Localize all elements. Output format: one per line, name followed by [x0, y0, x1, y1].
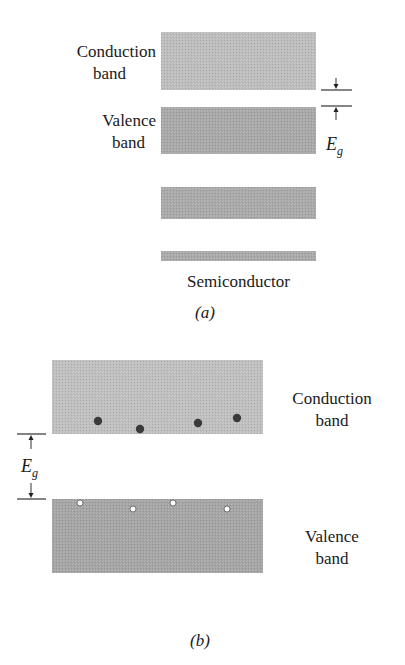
electron-dot-icon: [194, 419, 202, 427]
panel-a-lower-band-1-texture: [161, 187, 316, 219]
panel-a-gap-subscript: g: [337, 144, 343, 158]
panel-a-conduction-label-line2: band: [40, 63, 156, 85]
panel-a-bands: [161, 32, 316, 261]
panel-a-title: Semiconductor: [161, 271, 316, 293]
panel-a-valence-label: Valence band: [40, 110, 156, 154]
panel-b-conduction-label-line2: band: [274, 410, 390, 432]
up-arrowhead-icon: [29, 435, 34, 440]
electron-dot-icon: [136, 425, 144, 433]
up-arrowhead-icon: [334, 107, 339, 112]
hole-circle-icon: [224, 506, 230, 512]
panel-a-conduction-band-texture: [161, 32, 316, 90]
panel-a-valence-band-texture: [161, 107, 316, 154]
down-arrowhead-icon: [29, 493, 34, 498]
panel-b-gap-label: Eg: [21, 455, 38, 484]
electron-dot-icon: [94, 417, 102, 425]
panel-b-valence-band-texture: [52, 499, 263, 573]
panel-a-conduction-label-line1: Conduction: [40, 41, 156, 63]
panel-b-bands: [52, 360, 263, 573]
panel-b-valence-label-line1: Valence: [274, 526, 390, 548]
panel-a-gap-label: Eg: [326, 133, 343, 162]
panel-a-gap-marker: [321, 78, 352, 120]
panel-b-conduction-label: Conduction band: [274, 388, 390, 432]
panel-a-gap-symbol: E: [326, 134, 337, 154]
band-diagram: Conduction band Valence band Eg Semicond…: [0, 0, 405, 665]
panel-b-valence-label-line2: band: [274, 548, 390, 570]
panel-a-caption: (a): [161, 302, 249, 324]
panel-b-conduction-band-texture: [52, 360, 263, 434]
panel-a-valence-label-line2: band: [40, 132, 156, 154]
panel-b-caption: (b): [180, 630, 220, 652]
panel-b-gap-subscript: g: [32, 466, 38, 480]
panel-b-valence-label: Valence band: [274, 526, 390, 570]
hole-circle-icon: [170, 500, 176, 506]
down-arrowhead-icon: [334, 84, 339, 89]
electron-dot-icon: [233, 414, 241, 422]
panel-b-gap-symbol: E: [21, 456, 32, 476]
panel-a-conduction-label: Conduction band: [40, 41, 156, 85]
hole-circle-icon: [130, 506, 136, 512]
panel-a-lower-band-2-texture: [161, 251, 316, 261]
panel-a-valence-label-line1: Valence: [40, 110, 156, 132]
hole-circle-icon: [77, 500, 83, 506]
panel-b-conduction-label-line1: Conduction: [274, 388, 390, 410]
